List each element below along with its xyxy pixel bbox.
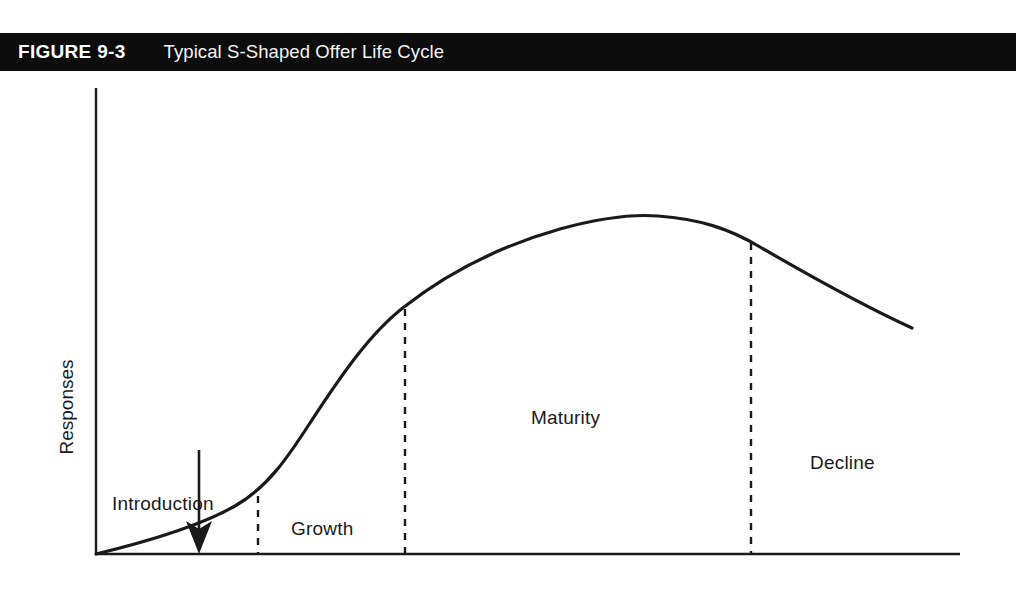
figure-number: FIGURE 9-3 xyxy=(18,41,126,63)
s-curve-path xyxy=(96,216,912,554)
annotation-decline: Decline xyxy=(810,452,875,474)
figure-container: FIGURE 9-3 Typical S-Shaped Offer Life C… xyxy=(0,0,1016,598)
annotation-growth: Growth xyxy=(291,518,353,540)
figure-title-bar: FIGURE 9-3 Typical S-Shaped Offer Life C… xyxy=(0,33,1016,71)
annotation-introduction: Introduction xyxy=(112,493,214,515)
y-axis-label: Responses xyxy=(56,337,78,477)
s-curve-chart xyxy=(0,71,1016,598)
figure-title: Typical S-Shaped Offer Life Cycle xyxy=(164,41,445,63)
chart-plot-area: Introduction Growth Maturity Decline Tim… xyxy=(0,71,1016,598)
annotation-maturity: Maturity xyxy=(531,407,600,429)
